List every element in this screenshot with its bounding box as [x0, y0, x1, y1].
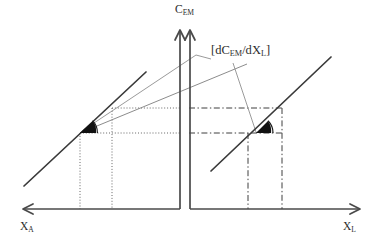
right-budget-line: [211, 57, 331, 171]
left-tangent-ray: [80, 64, 247, 133]
slope-label-slash: /d: [242, 43, 252, 57]
left-angle-marker: [80, 121, 97, 133]
leader-to-left-vertex: [82, 55, 211, 131]
slope-annotation-label: [dCEM/dXL]: [211, 44, 270, 57]
slope-label-suffix: ]: [266, 43, 270, 57]
axis-label-xl: XL: [343, 221, 356, 233]
axis-label-cem-base: C: [175, 3, 183, 15]
axis-label-cem-subscript: EM: [183, 8, 194, 17]
axis-label-xa-subscript: A: [28, 225, 33, 234]
axis-label-xl-subscript: L: [351, 225, 356, 234]
slope-label-leader-lines: [82, 55, 256, 132]
slope-label-c: C: [221, 43, 229, 57]
diagram-vector-layer: [0, 0, 383, 251]
axis-label-cem: CEM: [175, 4, 194, 16]
leader-to-right-vertex: [233, 63, 256, 132]
slope-label-prefix: [d: [211, 43, 221, 57]
diagram-canvas: CEM XA XL [dCEM/dXL]: [0, 0, 383, 251]
slope-label-x: X: [252, 43, 261, 57]
slope-label-sub-em: EM: [230, 49, 242, 58]
slope-label-sub-l: L: [261, 49, 266, 58]
axis-label-xa: XA: [20, 221, 34, 233]
